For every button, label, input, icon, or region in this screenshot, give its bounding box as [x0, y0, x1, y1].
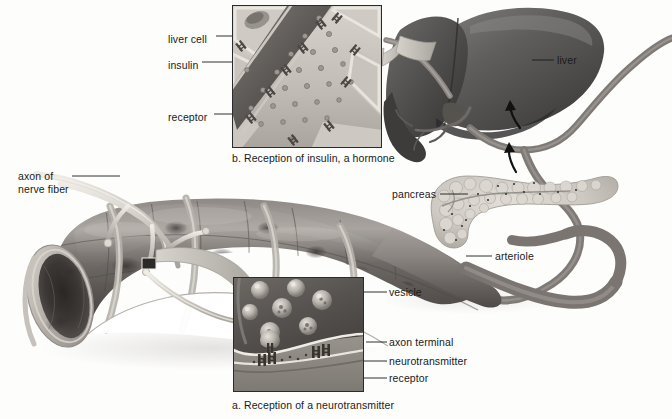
label-receptor-a: receptor	[389, 372, 428, 385]
caption-panel-a: a. Reception of a neurotransmitter	[232, 399, 394, 411]
panel-a-inset	[233, 277, 364, 392]
liver-illustration	[384, 8, 605, 162]
label-line-1: axon of	[18, 170, 53, 182]
label-neurotransmitter: neurotransmitter	[389, 355, 467, 368]
label-insulin: insulin	[168, 59, 198, 72]
label-axon-terminal: axon terminal	[389, 336, 453, 349]
caption-panel-b: b. Reception of insulin, a hormone	[232, 152, 395, 164]
label-axon-of-nerve-fiber: axon of nerve fiber	[18, 170, 69, 195]
label-line-2: nerve fiber	[18, 183, 69, 195]
panel-b-artwork	[233, 6, 382, 148]
panel-b-inset	[232, 5, 382, 148]
label-vesicle: vesicle	[389, 286, 422, 299]
label-liver: liver	[557, 54, 577, 67]
label-pancreas: pancreas	[392, 188, 436, 201]
panel-a-artwork	[234, 278, 364, 392]
label-liver-cell: liver cell	[168, 33, 207, 46]
label-arteriole: arteriole	[495, 250, 534, 263]
magnify-source-box-a	[142, 258, 156, 269]
figure-canvas: liver cell insulin receptor b. Reception…	[0, 0, 672, 419]
label-receptor-b: receptor	[168, 111, 207, 124]
